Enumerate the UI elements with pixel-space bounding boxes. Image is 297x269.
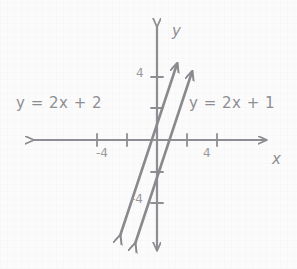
y-axis-label: y <box>172 22 181 40</box>
y-tick-label-negative-4: -4 <box>131 192 143 206</box>
x-tick-label-negative-4: -4 <box>96 146 108 160</box>
coordinate-plane <box>0 0 297 269</box>
line-y-equals-2x-plus-2 <box>120 64 177 236</box>
equation-label-right: y = 2x + 1 <box>189 94 275 112</box>
x-tick-label-positive-4: 4 <box>203 146 211 160</box>
y-tick-label-positive-4: 4 <box>136 66 144 80</box>
equation-label-left: y = 2x + 2 <box>16 94 102 112</box>
graph-figure: y = 2x + 2 y = 2x + 1 y x -4 4 4 -4 <box>0 0 297 269</box>
x-axis-label: x <box>272 150 281 168</box>
line-y-equals-2x-plus-1 <box>135 72 192 244</box>
